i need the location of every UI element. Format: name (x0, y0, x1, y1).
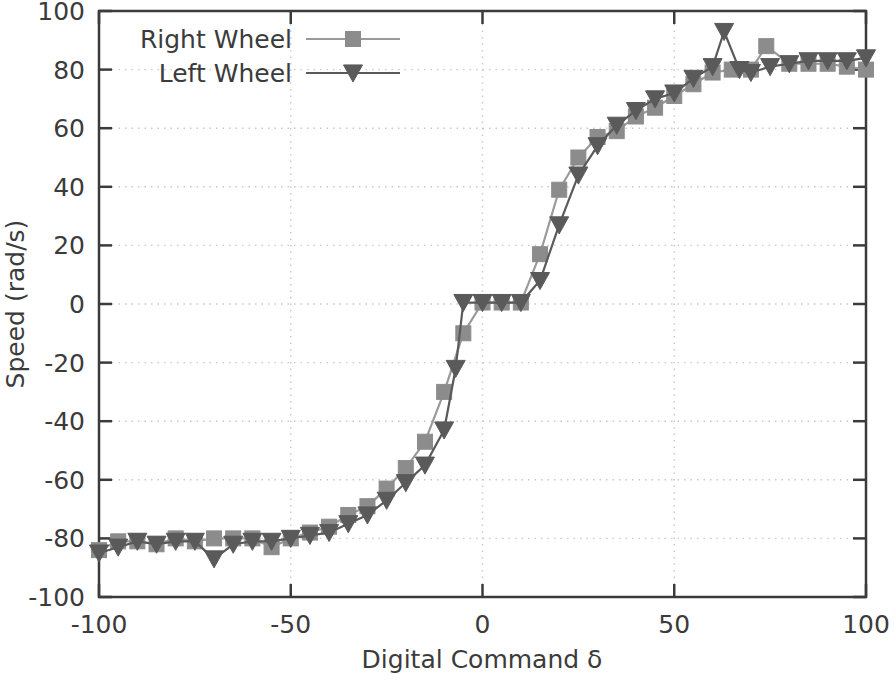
chart-background (0, 0, 895, 680)
y-tick-label: -40 (44, 407, 85, 436)
data-point-marker (552, 182, 567, 197)
x-tick-label: -50 (270, 610, 311, 639)
chart-container: -100-50050100 -100-80-60-40-200204060801… (0, 0, 895, 680)
legend-label: Left Wheel (159, 59, 292, 88)
data-point-marker (759, 39, 774, 54)
x-tick-label: -100 (71, 610, 128, 639)
y-tick-label: 0 (69, 290, 85, 319)
y-tick-label: 20 (53, 231, 85, 260)
speed-vs-digital-command-chart: -100-50050100 -100-80-60-40-200204060801… (0, 0, 895, 680)
y-tick-label: -100 (28, 583, 85, 612)
data-point-marker (533, 247, 548, 262)
x-tick-label: 100 (842, 610, 890, 639)
legend-marker-sample (346, 32, 361, 47)
y-tick-label: -80 (44, 524, 85, 553)
y-tick-label: 80 (53, 56, 85, 85)
y-tick-label: -60 (44, 466, 85, 495)
data-point-marker (417, 434, 432, 449)
data-point-marker (571, 150, 586, 165)
y-tick-label: 60 (53, 114, 85, 143)
legend-label: Right Wheel (140, 25, 292, 54)
y-tick-label: 100 (37, 0, 85, 26)
y-tick-label: 40 (53, 173, 85, 202)
data-point-marker (207, 531, 222, 546)
x-tick-label: 0 (475, 610, 491, 639)
y-axis-title: Speed (rad/s) (1, 220, 30, 389)
x-tick-label: 50 (658, 610, 690, 639)
data-point-marker (398, 461, 413, 476)
y-tick-label: -20 (44, 349, 85, 378)
x-axis-title: Digital Command δ (362, 645, 603, 674)
